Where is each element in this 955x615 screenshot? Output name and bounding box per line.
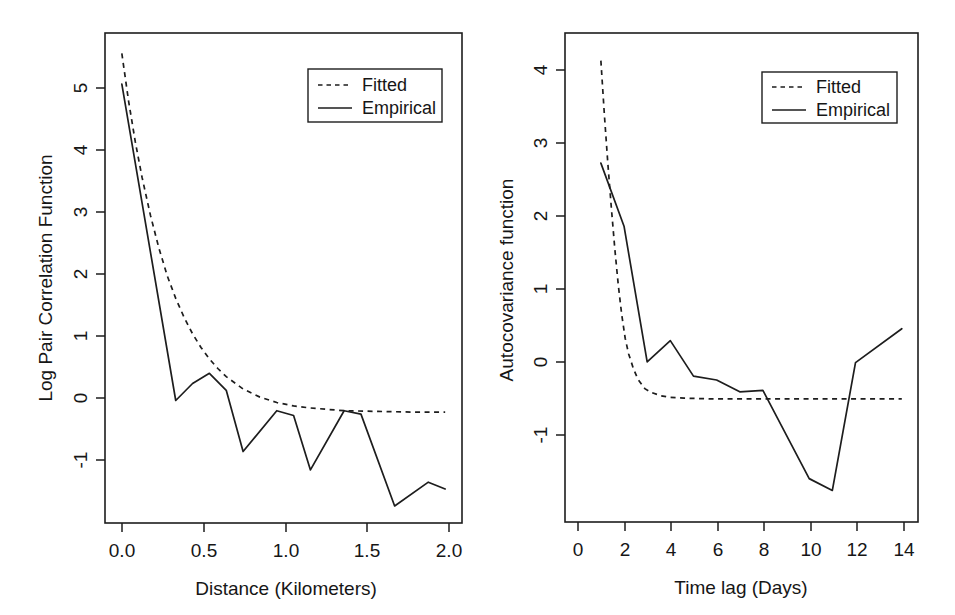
right-y-ticklabel-3: 2 [530,211,551,222]
right-x-ticklabel-3: 6 [713,539,724,560]
left-y-axis-title: Log Pair Correlation Function [35,154,56,401]
left-x-ticklabel-4: 2.0 [436,540,462,561]
left-y-ticklabel-4: 3 [70,207,91,218]
figure-root: 0.0 0.5 1.0 1.5 2.0 -1 0 1 2 3 4 5 [0,0,955,615]
right-y-ticklabel-0: -1 [530,427,551,444]
left-y-ticks [96,88,105,460]
left-y-ticklabel-2: 1 [70,331,91,342]
left-legend[interactable]: Fitted Empirical [308,69,442,122]
right-y-ticks [556,70,565,435]
chart-panel-right: 0 2 4 6 8 10 12 14 -1 0 1 2 3 4 [478,0,955,615]
left-x-ticks [122,523,449,532]
right-x-ticklabel-4: 8 [759,539,770,560]
left-x-ticklabel-3: 1.5 [354,540,380,561]
right-y-ticklabel-4: 3 [530,138,551,149]
right-legend[interactable]: Fitted Empirical [762,72,897,123]
left-x-ticklabel-0: 0.0 [109,540,135,561]
right-y-ticklabel-1: 0 [530,357,551,368]
left-y-ticklabel-6: 5 [70,83,91,94]
left-x-ticklabel-2: 1.0 [273,540,299,561]
right-x-ticklabel-6: 12 [846,539,867,560]
left-y-ticklabel-3: 2 [70,269,91,280]
chart-panel-left: 0.0 0.5 1.0 1.5 2.0 -1 0 1 2 3 4 5 [0,0,478,615]
left-y-ticklabel-1: 0 [70,393,91,404]
left-y-ticklabel-5: 4 [70,144,91,155]
right-y-ticklabel-2: 1 [530,284,551,295]
right-series-empirical [601,163,902,490]
right-plot-svg: 0 2 4 6 8 10 12 14 -1 0 1 2 3 4 [478,0,955,615]
right-x-ticklabel-7: 14 [893,539,915,560]
right-x-ticklabel-0: 0 [573,539,584,560]
right-y-axis-title: Autocovariance function [496,179,517,382]
left-x-ticklabel-1: 0.5 [191,540,217,561]
right-x-ticklabel-5: 10 [800,539,821,560]
left-series-empirical [122,84,445,506]
right-x-ticklabel-2: 4 [666,539,677,560]
left-x-axis-title: Distance (Kilometers) [195,578,377,599]
right-legend-label-empirical: Empirical [816,100,890,120]
right-y-ticklabel-5: 4 [530,64,551,75]
right-series-group [601,61,902,491]
left-legend-label-fitted: Fitted [362,75,407,95]
left-plot-svg: 0.0 0.5 1.0 1.5 2.0 -1 0 1 2 3 4 5 [0,0,478,615]
left-legend-label-empirical: Empirical [362,98,436,118]
right-x-axis-title: Time lag (Days) [674,577,807,598]
right-x-ticklabel-1: 2 [620,539,631,560]
right-legend-label-fitted: Fitted [816,77,861,97]
left-y-ticklabel-0: -1 [70,452,91,469]
right-x-ticks [578,522,904,531]
